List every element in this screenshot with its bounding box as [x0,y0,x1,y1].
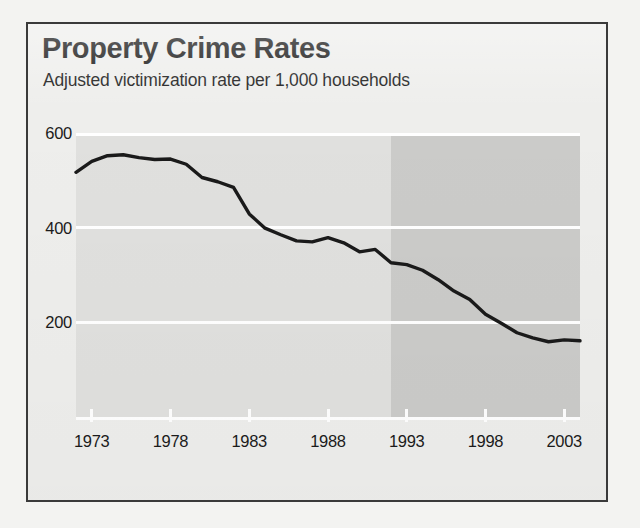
chart-figure: Property Crime Rates Adjusted victimizat… [0,0,640,528]
chart-title: Property Crime Rates [42,32,331,65]
plot-area [76,133,580,417]
series-polyline [76,155,580,342]
x-tick-label-1973: 1973 [74,432,110,451]
chart-subtitle: Adjusted victimization rate per 1,000 ho… [43,70,410,91]
x-tick-1978 [169,409,172,422]
x-tick-label-2003: 2003 [546,432,582,451]
x-tick-1983 [248,409,251,422]
x-tick-1993 [405,409,408,422]
x-tick-1998 [484,409,487,422]
x-tick-label-1998: 1998 [468,432,504,451]
y-tick-label-400: 400 [28,218,72,237]
y-axis-labels: 600400200 [28,24,72,504]
y-tick-label-200: 200 [28,313,72,332]
x-tick-1973 [90,409,93,422]
series-line [76,133,580,417]
x-tick-label-1978: 1978 [153,432,189,451]
x-tick-label-1993: 1993 [389,432,425,451]
x-tick-label-1988: 1988 [310,432,346,451]
y-tick-label-600: 600 [28,124,72,143]
chart-panel: Property Crime Rates Adjusted victimizat… [26,22,608,502]
x-tick-label-1983: 1983 [231,432,267,451]
x-tick-2003 [563,409,566,422]
x-tick-1988 [327,409,330,422]
